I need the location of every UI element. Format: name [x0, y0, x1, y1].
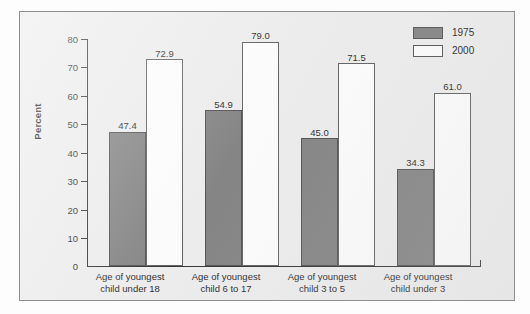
legend-label-1975: 1975 [452, 28, 474, 38]
y-axis-title: Percent [32, 87, 43, 157]
bar-1975-group-4[interactable]: 34.3 [397, 169, 434, 266]
bar-1975-group-1[interactable]: 47.4 [109, 132, 146, 267]
y-axis-tick-labels: 80 70 60 50 40 30 20 10 0 [48, 12, 78, 302]
category-label-line-1: Age of youngest [348, 271, 488, 283]
bar-value-1975-group-1: 47.4 [118, 121, 137, 131]
y-tick-label-70: 70 [52, 63, 78, 73]
legend: 1975 2000 [413, 25, 474, 61]
y-tick-label-60: 60 [52, 92, 78, 102]
legend-item-1975[interactable]: 1975 [413, 25, 474, 40]
bar-value-2000-group-4: 61.0 [443, 82, 462, 92]
bar-value-2000-group-3: 71.5 [347, 53, 366, 63]
bar-value-1975-group-2: 54.9 [214, 100, 233, 110]
dark-gray-swatch-icon [413, 27, 443, 39]
y-tick-label-40: 40 [52, 149, 78, 159]
category-label-group-4: Age of youngest child under 3 [348, 271, 488, 294]
white-swatch-icon [413, 45, 443, 57]
bar-value-2000-group-1: 72.9 [155, 49, 174, 59]
category-label-line-2: child under 3 [348, 283, 488, 295]
bar-2000-group-3[interactable]: 71.5 [338, 63, 375, 266]
bar-2000-group-2[interactable]: 79.0 [242, 42, 279, 266]
y-tick-label-20: 20 [52, 206, 78, 216]
bar-value-1975-group-4: 34.3 [406, 158, 425, 168]
y-tick-label-30: 30 [52, 177, 78, 187]
legend-label-2000: 2000 [452, 46, 474, 56]
bar-1975-group-3[interactable]: 45.0 [301, 138, 338, 266]
y-tick-label-50: 50 [52, 120, 78, 130]
bar-value-1975-group-3: 45.0 [310, 128, 329, 138]
bar-value-2000-group-2: 79.0 [251, 31, 270, 41]
bar-2000-group-1[interactable]: 72.9 [146, 59, 183, 266]
bar-1975-group-2[interactable]: 54.9 [205, 110, 242, 266]
x-axis-line [87, 266, 481, 267]
legend-item-2000[interactable]: 2000 [413, 43, 474, 58]
y-tick-label-10: 10 [52, 234, 78, 244]
bar-2000-group-4[interactable]: 61.0 [434, 93, 471, 266]
plot-area: 47.4 72.9 54.9 79.0 45.0 71.5 34.3 61.0 [87, 39, 481, 266]
figure-frame: Percent 80 70 60 50 40 30 20 10 0 47.4 7… [19, 11, 515, 301]
y-tick-label-80: 80 [52, 35, 78, 45]
